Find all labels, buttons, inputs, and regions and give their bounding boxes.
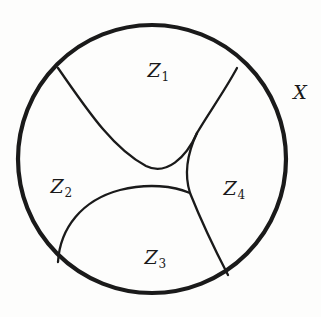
figure-canvas: Z1 Z2 Z3 Z4 X bbox=[0, 0, 321, 317]
region-label-z4-base: Z bbox=[223, 177, 236, 199]
boundary-z3-z4-curve bbox=[190, 193, 228, 275]
boundary-z1-z4-curve bbox=[197, 68, 237, 133]
boundary-z1-z2-curve bbox=[58, 68, 197, 169]
region-label-z2-subscript: 2 bbox=[64, 186, 72, 200]
boundary-z2-z3-curve bbox=[58, 186, 190, 262]
space-label-x: X bbox=[293, 81, 307, 103]
boundary-z4-neck-curve bbox=[187, 133, 197, 193]
region-label-z1-subscript: 1 bbox=[161, 70, 169, 84]
region-label-z3: Z3 bbox=[144, 246, 165, 268]
region-label-z3-subscript: 3 bbox=[158, 257, 166, 271]
region-label-z3-base: Z bbox=[144, 246, 157, 268]
region-label-z4: Z4 bbox=[223, 177, 244, 199]
region-label-z1: Z1 bbox=[147, 59, 168, 81]
region-label-z1-base: Z bbox=[147, 59, 160, 81]
region-label-z2-base: Z bbox=[50, 175, 63, 197]
region-label-z2: Z2 bbox=[50, 175, 71, 197]
region-label-z4-subscript: 4 bbox=[237, 188, 245, 202]
